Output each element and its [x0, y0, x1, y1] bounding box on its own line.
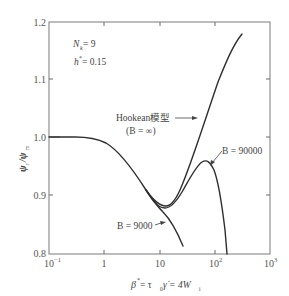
chart: 0.8 0.9 1.0 1.1 1.2 10 −1 1 10 10 2 10 3… — [0, 0, 289, 296]
svg-text:= 9: = 9 — [83, 39, 96, 49]
svg-text:γ̇ = 4W: γ̇ = 4W — [163, 280, 192, 290]
svg-text:3: 3 — [274, 256, 277, 263]
x-tick-label-1000: 10 3 — [264, 256, 277, 269]
svg-text:/ψ: /ψ — [17, 152, 28, 163]
svg-text:m: m — [24, 145, 30, 150]
svg-text:10: 10 — [264, 258, 274, 269]
arrow-b90000 — [210, 151, 222, 166]
svg-text:N: N — [72, 39, 80, 49]
svg-text:r: r — [24, 163, 30, 165]
y-tick-label: 1.2 — [34, 17, 47, 28]
arrow-hookean — [175, 116, 198, 120]
y-axis-label: ψ r /ψ m — [17, 145, 30, 172]
svg-text:10: 10 — [209, 258, 219, 269]
svg-text:10: 10 — [44, 258, 54, 269]
svg-text:i: i — [199, 286, 201, 292]
annotation-hookean: Hookean模型 — [116, 112, 170, 123]
arrow-b9000 — [155, 221, 166, 225]
y-tick-label: 1.0 — [34, 132, 47, 143]
x-tick-label-1: 1 — [102, 258, 107, 269]
x-ticks — [104, 22, 215, 254]
x-axis-label: β * = τ 0 γ̇ = 4W i — [130, 277, 201, 292]
annotation-b90000: B = 90000 — [222, 146, 262, 156]
svg-text:= τ: = τ — [140, 280, 152, 290]
annotation-b9000: B = 9000 — [117, 221, 153, 231]
x-tick-label-100: 10 2 — [209, 256, 222, 269]
svg-text:−1: −1 — [54, 256, 61, 263]
x-tick-label-0.1: 10 −1 — [44, 256, 61, 269]
annotation-nk: N k = 9 — [72, 39, 96, 51]
svg-text:ψ: ψ — [17, 165, 28, 172]
y-tick-label: 0.9 — [34, 190, 47, 201]
annotation-h: h * = 0.15 — [74, 55, 107, 67]
svg-text:β: β — [130, 279, 136, 290]
svg-text:= 0.15: = 0.15 — [82, 57, 107, 67]
y-tick-label: 1.1 — [34, 74, 47, 85]
annotation-hookean-b: (B = ∞) — [126, 126, 156, 137]
x-tick-label-10: 10 — [155, 258, 165, 269]
svg-text:2: 2 — [219, 256, 222, 263]
